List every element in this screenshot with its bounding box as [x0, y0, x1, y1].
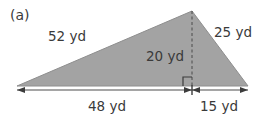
right-side-length-label: 25 yd: [214, 26, 252, 40]
dimension-arrow-mid-left-icon: [184, 87, 192, 93]
height-length-label: 20 yd: [146, 50, 184, 64]
base-right-length-label: 15 yd: [200, 100, 238, 114]
dimension-arrow-right-icon: [240, 87, 248, 93]
part-label: (a): [10, 8, 30, 22]
dimension-arrow-left-icon: [17, 87, 25, 93]
base-left-length-label: 48 yd: [88, 100, 126, 114]
dimension-arrow-mid-right-icon: [192, 87, 200, 93]
triangle-shape: [17, 11, 248, 86]
left-side-length-label: 52 yd: [48, 30, 86, 44]
geometry-figure: (a) 52 yd 20 yd 25 yd 48 yd 15 yd: [0, 0, 264, 124]
